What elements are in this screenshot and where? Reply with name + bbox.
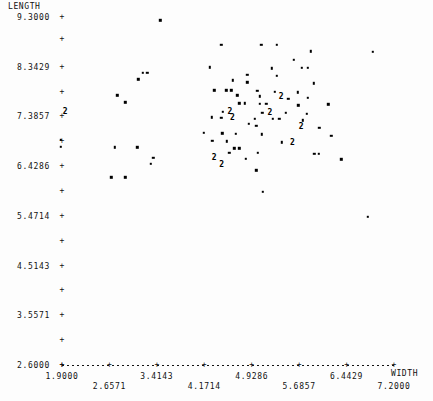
data-point xyxy=(116,94,118,96)
data-point xyxy=(276,43,278,45)
x-axis-tick: + xyxy=(249,361,254,369)
data-point xyxy=(274,91,276,93)
y-axis-tick: + xyxy=(60,286,65,294)
data-point-overplot: 2 xyxy=(212,154,217,162)
x-axis-tick: + xyxy=(344,361,349,369)
data-point xyxy=(306,97,308,99)
data-point xyxy=(228,151,230,153)
scatter-plot-figure: LENGTH WIDTH +9.3000++8.3429++7.3857++6.… xyxy=(0,0,433,401)
data-point xyxy=(255,169,257,171)
data-point xyxy=(330,135,332,137)
data-point xyxy=(152,157,154,159)
y-axis-tick: + xyxy=(60,212,65,220)
data-point xyxy=(234,133,236,135)
data-point xyxy=(272,118,274,120)
x-axis-tick: + xyxy=(297,361,302,369)
x-axis-tick: + xyxy=(154,361,159,369)
data-point xyxy=(142,72,144,74)
data-point-overplot: 2 xyxy=(268,109,273,117)
x-axis-tick-label: 5.6857 xyxy=(283,382,316,391)
x-axis-tick-label: 4.1714 xyxy=(188,382,221,391)
data-point xyxy=(261,133,263,135)
data-point xyxy=(136,146,138,148)
y-axis-tick-label: 2.6000 xyxy=(17,361,50,370)
data-point xyxy=(260,43,262,45)
data-point xyxy=(371,51,373,53)
data-point xyxy=(150,163,152,165)
data-point xyxy=(222,110,224,112)
y-axis-tick-label: 9.3000 xyxy=(17,13,50,22)
data-point xyxy=(293,58,295,60)
data-point xyxy=(233,147,235,149)
data-point xyxy=(262,191,264,193)
data-point-overplot: 2 xyxy=(279,93,284,101)
y-axis-tick: + xyxy=(60,35,65,43)
data-point xyxy=(225,89,227,91)
y-axis-tick: + xyxy=(60,162,65,170)
data-point xyxy=(287,98,289,100)
data-point xyxy=(259,95,261,97)
data-point xyxy=(340,158,342,160)
data-point xyxy=(276,74,278,76)
x-axis-tick: + xyxy=(202,361,207,369)
data-point xyxy=(60,138,62,140)
data-point xyxy=(313,82,315,84)
x-axis-title: WIDTH xyxy=(391,369,418,378)
y-axis-tick-label: 7.3857 xyxy=(17,112,50,121)
data-point xyxy=(246,81,248,83)
data-point xyxy=(220,117,222,119)
y-axis-tick-label: 3.5571 xyxy=(17,311,50,320)
data-point xyxy=(221,132,223,134)
x-axis-tick-label: 3.4143 xyxy=(140,372,173,381)
data-point xyxy=(265,103,267,105)
data-point xyxy=(124,101,126,103)
data-point xyxy=(281,141,283,143)
data-point xyxy=(247,123,249,125)
y-axis-tick: + xyxy=(60,237,65,245)
data-point xyxy=(202,132,204,134)
data-point xyxy=(297,104,299,106)
data-point xyxy=(244,102,246,104)
data-point xyxy=(255,125,257,127)
data-point xyxy=(313,152,315,154)
data-point xyxy=(318,126,320,128)
data-point xyxy=(257,152,259,154)
y-axis-tick-label: 5.4714 xyxy=(17,211,50,220)
data-point xyxy=(230,89,232,91)
data-point xyxy=(278,118,280,120)
y-axis-tick: + xyxy=(60,336,65,344)
x-axis-tick-label: 1.9000 xyxy=(45,372,78,381)
x-axis-tick-label: 6.4429 xyxy=(330,372,363,381)
data-point xyxy=(296,91,298,93)
data-point xyxy=(220,44,222,46)
data-point xyxy=(137,78,139,80)
y-axis-title: LENGTH xyxy=(8,2,41,11)
data-point xyxy=(211,116,213,118)
data-point xyxy=(327,103,329,105)
data-point xyxy=(238,102,240,104)
y-axis-tick-label: 6.4286 xyxy=(17,162,50,171)
data-point xyxy=(366,216,368,218)
x-axis-tick-label: 2.6571 xyxy=(93,382,126,391)
x-axis-tick-label: 4.9286 xyxy=(235,372,268,381)
data-point xyxy=(284,112,286,114)
data-point xyxy=(236,94,238,96)
data-point xyxy=(271,67,273,69)
data-point xyxy=(60,146,62,148)
data-point xyxy=(232,79,234,81)
data-point xyxy=(113,146,115,148)
data-point xyxy=(256,90,258,92)
data-point xyxy=(211,139,213,141)
x-axis-tick: + xyxy=(60,361,65,369)
data-point xyxy=(124,176,126,178)
data-point xyxy=(246,73,248,75)
data-point xyxy=(259,103,261,105)
x-axis-tick: + xyxy=(107,361,112,369)
data-point xyxy=(261,111,263,113)
y-axis-tick: + xyxy=(60,187,65,195)
y-axis-tick-label: 4.5143 xyxy=(17,261,50,270)
data-point xyxy=(301,67,303,69)
data-point-overplot: 2 xyxy=(63,108,68,116)
data-point-overplot: 2 xyxy=(290,139,295,147)
data-point xyxy=(306,67,308,69)
